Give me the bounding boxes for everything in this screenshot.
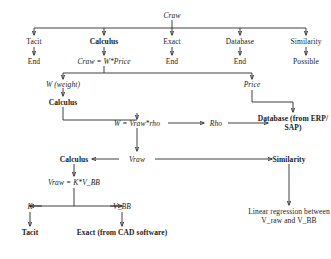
node-rho: Rho — [210, 119, 222, 128]
node-method-exact: Exact — [163, 37, 181, 46]
node-end-exact: End — [166, 57, 178, 66]
node-vraw: Vraw — [129, 155, 145, 164]
node-k: K — [27, 202, 32, 211]
node-possible-similarity: Possible — [293, 57, 319, 66]
node-end-tacit: End — [28, 57, 40, 66]
node-exact-cad: Exact (from CAD software) — [74, 228, 170, 237]
node-calculus-vraw: Calculus — [60, 155, 89, 164]
node-method-similarity: Similarity — [291, 37, 322, 46]
node-method-tacit: Tacit — [26, 37, 41, 46]
node-w-weight: W (weight) — [46, 80, 80, 89]
node-database-erp-sap: Database (from ERP/ SAP) — [257, 114, 329, 132]
node-calculus-weight: Calculus — [49, 98, 78, 107]
node-v-bb: V_BB — [113, 202, 131, 211]
node-tacit-k: Tacit — [22, 228, 38, 237]
node-method-database: Database — [226, 37, 254, 46]
node-formula-craw: Craw = W*Price — [77, 57, 130, 66]
node-linear-regression: Linear regression between V_raw and V_BB — [248, 207, 330, 225]
node-method-calculus: Calculus — [90, 37, 119, 46]
node-root-craw: Craw — [163, 11, 180, 20]
node-formula-w: W = Vraw*rho — [114, 119, 160, 128]
node-formula-vraw: Vraw = K*V_BB — [48, 178, 100, 187]
diagram-canvas: Craw Tacit Calculus Exact Database Simil… — [0, 0, 331, 259]
node-similarity-vraw: Similarity — [272, 155, 305, 164]
node-end-database: End — [234, 57, 246, 66]
node-price: Price — [244, 80, 261, 89]
